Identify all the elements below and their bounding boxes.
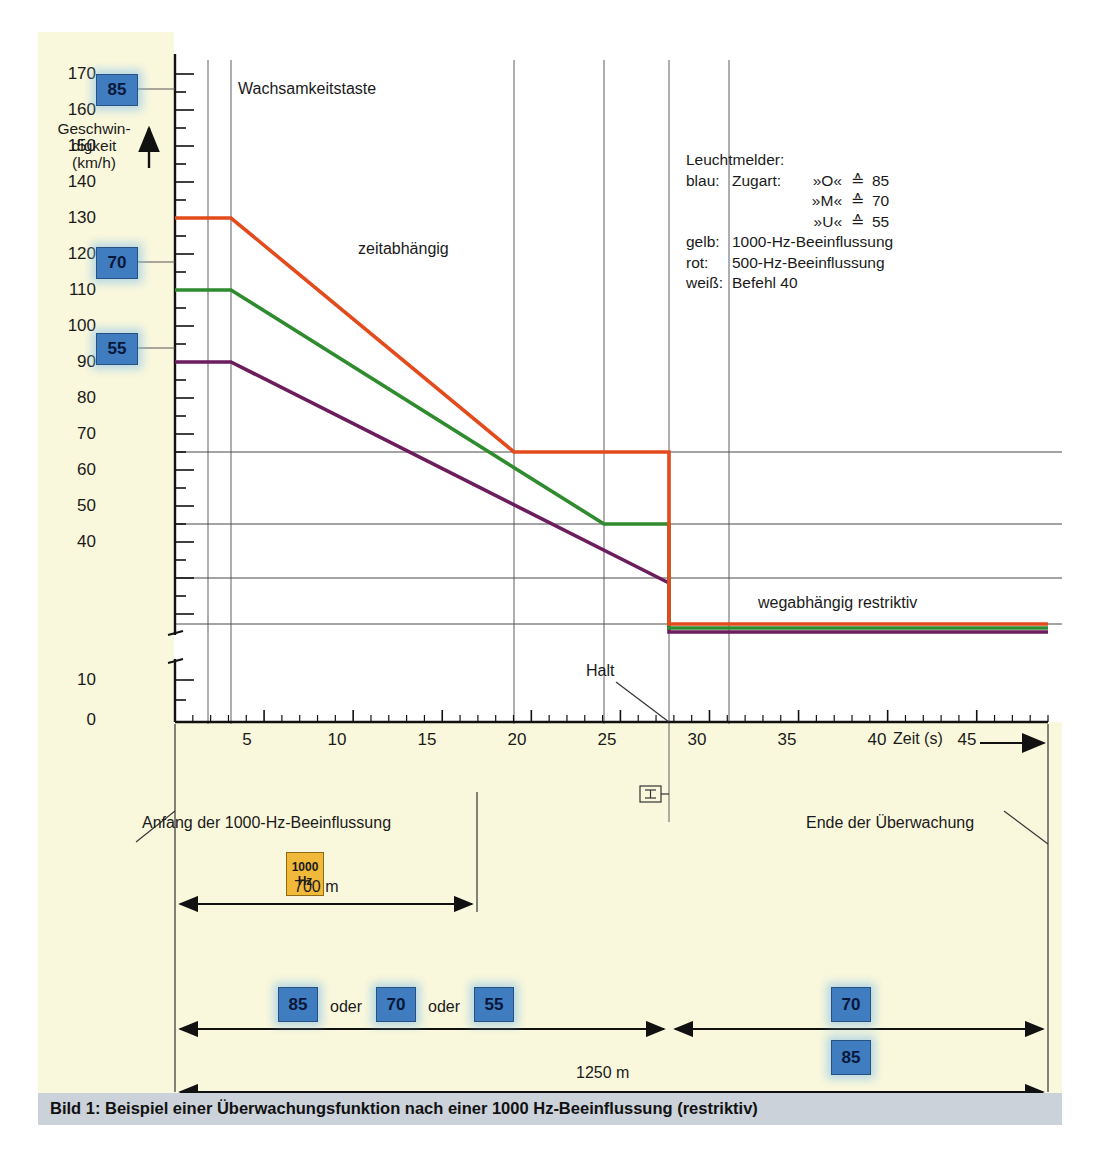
badge-train-70-right: 70 (831, 987, 871, 1022)
legend-color-blau: blau: (686, 171, 732, 192)
figure-panel: 170 160 150 140 130 120 110 100 90 80 70… (38, 32, 1062, 1125)
x-tick-35: 35 (767, 730, 807, 750)
figure-caption-bar: Bild 1: Beispiel einer Überwachungsfunkt… (38, 1093, 1062, 1125)
label-oder-1: oder (330, 998, 362, 1016)
y-tick-50: 50 (56, 496, 96, 516)
y-tick-140: 140 (56, 172, 96, 192)
y-tick-90: 90 (56, 352, 96, 372)
y-tick-0: 0 (56, 710, 96, 730)
x-tick-15: 15 (407, 730, 447, 750)
badge-y-70: 70 (96, 247, 138, 279)
legend-sym-u: »U« (806, 212, 846, 233)
legend-row-1: »M« ≙ 70 (686, 191, 897, 212)
label-oder-2: oder (428, 998, 460, 1016)
figure-caption-text: Bild 1: Beispiel einer Überwachungsfunkt… (50, 1099, 758, 1118)
y-axis-label-line1: Geschwin- (50, 120, 138, 137)
y-axis-label-line2: digkeit (50, 137, 138, 154)
ende-leader-line (1004, 811, 1048, 844)
legend-kind-blank-1 (732, 191, 806, 212)
badge-1000hz-line1: 1000 (292, 860, 319, 874)
halt-leader-line (616, 682, 669, 722)
legend-text-weiss: Befehl 40 (732, 273, 897, 294)
y-axis (168, 54, 194, 722)
y-tick-40: 40 (56, 532, 96, 552)
y-tick-160: 160 (56, 100, 96, 120)
legend-color-blank-2 (686, 212, 732, 233)
y-tick-120: 120 (56, 244, 96, 264)
x-axis-label: Zeit (s) (893, 730, 943, 748)
y-tick-170: 170 (56, 64, 96, 84)
badge-connector-lines (138, 89, 175, 348)
dimension-extension-lines (175, 724, 1048, 1092)
y-tick-110: 110 (56, 280, 96, 300)
badge-train-85-left: 85 (278, 987, 318, 1022)
legend-val-70: 70 (872, 191, 897, 212)
badge-y-85: 85 (96, 74, 138, 106)
legend-color-weiss: weiß: (686, 273, 732, 294)
legend-color-rot: rot: (686, 253, 732, 274)
legend-row-gelb: gelb: 1000-Hz-Beeinflussung (686, 232, 897, 253)
y-tick-10: 10 (56, 670, 96, 690)
x-tick-5: 5 (227, 730, 267, 750)
x-tick-25: 25 (587, 730, 627, 750)
horizontal-gridlines (174, 452, 1062, 624)
legend-eq-0: ≙ (846, 171, 872, 192)
badge-y-55: 55 (96, 333, 138, 365)
legend-val-55: 55 (872, 212, 897, 233)
legend-title: Leuchtmelder: (686, 150, 897, 171)
y-tick-100: 100 (56, 316, 96, 336)
badge-train-70-left: 70 (376, 987, 416, 1022)
legend-color-blank-1 (686, 191, 732, 212)
curve-zugart-u (175, 362, 1048, 632)
curve-zugart-m (175, 290, 1048, 628)
legend-eq-1: ≙ (846, 191, 872, 212)
speed-curves (175, 218, 1048, 632)
dimension-label-700m: 700 m (294, 878, 338, 896)
annotation-wachsamkeitstaste: Wachsamkeitstaste (238, 80, 376, 98)
x-tick-10: 10 (317, 730, 357, 750)
annotation-ende: Ende der Überwachung (806, 814, 974, 832)
y-axis-label: Geschwin- digkeit (km/h) (50, 120, 138, 171)
legend-table: blau: Zugart: »O« ≙ 85 »M« ≙ 70 »U« ≙ 55 (686, 171, 897, 294)
curve-zugart-o (175, 218, 1048, 624)
annotation-halt: Halt (586, 662, 614, 680)
legend-eq-2: ≙ (846, 212, 872, 233)
legend-kind-blank-2 (732, 212, 806, 233)
annotation-zeitabhaengig: zeitabhängig (358, 240, 449, 258)
diagram-canvas (38, 32, 1062, 1125)
y-tick-60: 60 (56, 460, 96, 480)
x-axis (175, 710, 1050, 722)
annotation-wegabhaengig: wegabhängig restriktiv (758, 594, 917, 612)
legend-row-2: »U« ≙ 55 (686, 212, 897, 233)
stop-signal-icon (640, 786, 669, 802)
legend-text-gelb: 1000-Hz-Beeinflussung (732, 232, 897, 253)
dimension-label-1250m: 1250 m (576, 1064, 629, 1082)
badge-train-55-left: 55 (474, 987, 514, 1022)
x-tick-45: 45 (947, 730, 987, 750)
legend-sym-m: »M« (806, 191, 846, 212)
y-tick-70: 70 (56, 424, 96, 444)
badge-train-85-right: 85 (831, 1040, 871, 1075)
legend-text-rot: 500-Hz-Beeinflussung (732, 253, 897, 274)
legend-row-weiss: weiß: Befehl 40 (686, 273, 897, 294)
x-tick-40: 40 (857, 730, 897, 750)
y-axis-label-line3: (km/h) (50, 154, 138, 171)
y-tick-130: 130 (56, 208, 96, 228)
legend-color-gelb: gelb: (686, 232, 732, 253)
x-tick-30: 30 (677, 730, 717, 750)
legend: Leuchtmelder: blau: Zugart: »O« ≙ 85 »M«… (686, 150, 897, 294)
y-tick-80: 80 (56, 388, 96, 408)
legend-sym-o: »O« (806, 171, 846, 192)
legend-kind-zugart: Zugart: (732, 171, 806, 192)
x-tick-20: 20 (497, 730, 537, 750)
legend-row-0: blau: Zugart: »O« ≙ 85 (686, 171, 897, 192)
annotation-anfang: Anfang der 1000-Hz-Beeinflussung (142, 814, 391, 832)
legend-row-rot: rot: 500-Hz-Beeinflussung (686, 253, 897, 274)
legend-val-85: 85 (872, 171, 897, 192)
